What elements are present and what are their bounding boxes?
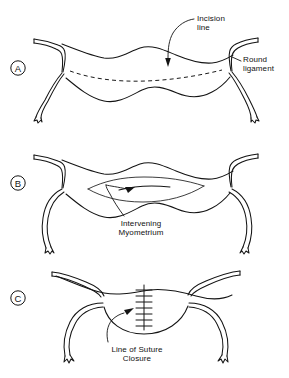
uterus-lower-contour-b <box>66 193 230 218</box>
uterus-upper-contour-a <box>62 44 233 63</box>
intervening-myometrium-leader-upper-b <box>106 185 127 189</box>
round-ligament-left-upper-inner-a <box>34 43 63 72</box>
ligament-flared-tip-left-c <box>64 355 74 363</box>
incision-line-leader-a <box>168 19 194 58</box>
callout-intervening-myometrium: Intervening Myometrium <box>104 219 178 238</box>
uterus-upper-contour-b <box>62 160 233 179</box>
uterus-lower-contour-a <box>66 77 230 102</box>
round-ligament-right-lower-inner-c <box>189 307 223 355</box>
incision-line-arrowhead-a <box>165 58 171 67</box>
round-ligament-right-lower-outer-b <box>232 189 252 248</box>
ligament-flared-tip-left-b <box>45 247 54 254</box>
ligament-flared-tip-left-a <box>34 117 42 123</box>
round-ligament-left-lower-outer-b <box>42 189 62 248</box>
callout-incision-line: Incision line <box>197 14 225 33</box>
round-ligament-leader-a <box>232 57 241 61</box>
incision-line-dashed-a <box>70 70 222 81</box>
panel-a-letter: A <box>15 63 22 74</box>
round-ligament-right-upper-inner-b <box>231 158 258 187</box>
suture-closure-arrowhead-c <box>124 308 134 315</box>
ligament-flared-tip-right-c <box>218 355 228 363</box>
round-ligament-left-lower-inner-a <box>41 74 64 118</box>
ligament-flared-tip-right-a <box>251 117 259 123</box>
ligament-flared-tip-right-b <box>240 247 249 254</box>
round-ligament-left-upper-inner-b <box>34 159 63 188</box>
callout-round-ligament: Round ligament <box>243 55 274 74</box>
intervening-myometrium-arrowhead-b <box>125 187 135 193</box>
round-ligament-right-upper-inner-c <box>191 275 240 296</box>
panel-b-letter: B <box>15 178 21 189</box>
round-ligament-right-lower-outer-a <box>232 72 257 117</box>
panel-a-drawing: A <box>11 19 259 123</box>
round-ligament-right-lower-outer-c <box>189 303 228 356</box>
round-ligament-left-lower-outer-a <box>36 73 62 117</box>
suture-closure-leader-c <box>107 313 124 342</box>
round-ligament-left-upper-inner-c <box>52 276 101 297</box>
incision-flap-lower-edge-b <box>88 186 204 202</box>
panel-c-letter: C <box>15 293 22 304</box>
surgical-illustration-figure: A <box>0 0 289 378</box>
incision-flap-upper-edge-b <box>88 177 204 189</box>
callout-line-of-suture-closure: Line of Suture Closure <box>97 345 177 364</box>
panel-b-drawing: B <box>11 154 258 254</box>
